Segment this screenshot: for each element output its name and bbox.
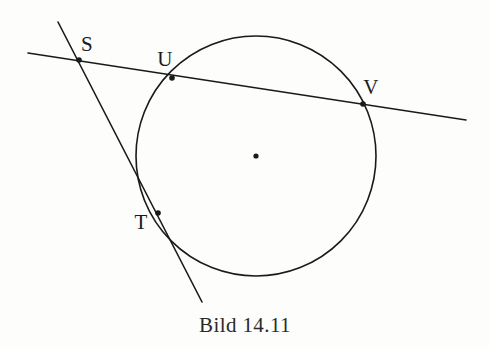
geometry-canvas [0, 0, 490, 347]
figure-caption: Bild 14.11 [0, 313, 490, 338]
secant-line [28, 53, 466, 120]
point-label-t: T [134, 212, 147, 233]
tangent-line [58, 22, 202, 302]
point-label-v: V [363, 77, 378, 98]
point-label-s: S [81, 34, 93, 55]
circle-center-dot [253, 153, 258, 158]
geometry-figure: S U V T Bild 14.11 [0, 0, 490, 347]
point-dot-t [155, 210, 161, 216]
point-label-u: U [157, 49, 172, 70]
point-dot-v [360, 101, 366, 107]
point-dot-u [169, 75, 175, 81]
point-dot-s [76, 57, 82, 63]
